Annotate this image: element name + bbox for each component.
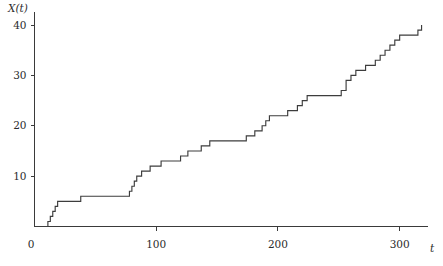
axes-group	[35, 12, 429, 227]
x-tick-label: 200	[268, 238, 288, 250]
x-tick-label: 100	[146, 238, 166, 250]
chart-figure: 010203040 100200300 X(t) t	[0, 0, 443, 266]
y-tick-label: 30	[13, 69, 26, 81]
y-axis-title: X(t)	[7, 2, 28, 14]
step-chart-canvas: 010203040 100200300 X(t) t	[0, 0, 443, 266]
y-tick-label: 10	[13, 170, 26, 182]
x-axis-ticks: 100200300	[146, 227, 409, 250]
x-tick-label: 300	[390, 238, 410, 250]
y-tick-label: 0	[28, 238, 35, 250]
x-axis-title: t	[430, 242, 435, 254]
y-axis-ticks: 010203040	[13, 19, 34, 250]
y-tick-label: 40	[13, 19, 26, 31]
y-tick-label: 20	[13, 119, 26, 131]
process-sample-path	[35, 25, 422, 226]
